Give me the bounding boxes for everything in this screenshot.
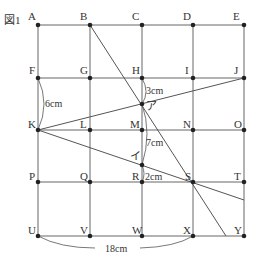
figure-title: 図1	[4, 14, 21, 26]
label-o: O	[234, 118, 242, 130]
geometry-figure: 図1 A B C D E F G H I J K L M N O P Q R S…	[0, 0, 258, 259]
point-a	[140, 102, 145, 107]
label-n: N	[183, 118, 191, 130]
label-g: G	[80, 64, 88, 76]
label-l: L	[80, 118, 87, 130]
label-e: E	[233, 10, 240, 22]
label-i: I	[185, 64, 189, 76]
dim-fk: 6cm	[45, 98, 62, 109]
label-b: B	[80, 10, 87, 22]
label-p: P	[29, 170, 35, 182]
label-a: A	[28, 10, 36, 22]
label-y: Y	[234, 224, 242, 236]
point-i	[140, 163, 145, 168]
label-u: U	[28, 224, 36, 236]
dim-i-r: 2cm	[145, 171, 162, 182]
label-m: M	[130, 118, 140, 130]
label-s: S	[185, 170, 191, 182]
label-c: C	[132, 10, 139, 22]
label-t: T	[234, 170, 241, 182]
dim-ux: 18cm	[105, 243, 127, 254]
label-intersection-a: ア	[146, 100, 157, 112]
label-v: V	[80, 224, 88, 236]
label-w: W	[132, 224, 143, 236]
label-k: K	[28, 118, 36, 130]
dim-h-a: 3cm	[146, 85, 163, 96]
label-r: R	[132, 170, 140, 182]
label-d: D	[183, 10, 191, 22]
label-j: J	[234, 64, 239, 76]
label-f: F	[29, 64, 35, 76]
label-q: Q	[80, 170, 88, 182]
label-h: H	[132, 64, 140, 76]
label-x: X	[183, 224, 191, 236]
label-intersection-i: イ	[130, 150, 141, 162]
dim-a-i: 7cm	[146, 137, 163, 148]
